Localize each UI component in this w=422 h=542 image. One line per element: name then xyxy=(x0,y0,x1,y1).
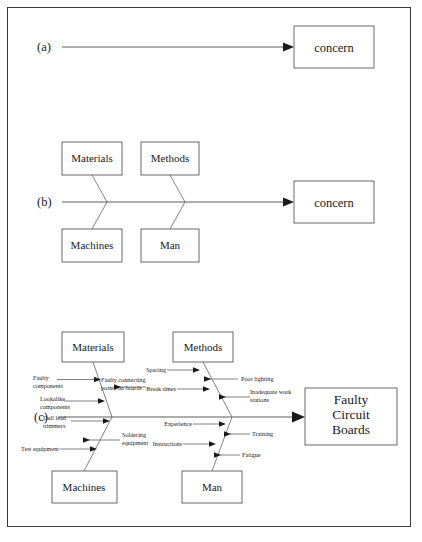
panel-c-spine-arrowhead xyxy=(292,412,305,423)
panel-a-effect-label: concern xyxy=(314,41,354,55)
arrow-soldering-equipment xyxy=(83,437,90,442)
arrow-training xyxy=(224,431,231,436)
panel-b-label-methods: Methods xyxy=(151,152,190,164)
cause-inadequate-work-stations-line2: stations xyxy=(250,396,269,403)
panel-b-rib-man xyxy=(170,202,185,229)
panel-b-label: (b) xyxy=(37,195,52,209)
cause-test-equipment-line1: Test equipment xyxy=(21,445,59,452)
cause-lookalike-components-line1: Lookalike xyxy=(40,395,65,402)
panel-b-label-materials: Materials xyxy=(71,152,113,164)
panel-a: (a) concern xyxy=(37,26,374,68)
cause-faulty-components-line2: components xyxy=(33,382,63,389)
cause-poor-lighting-line1: Poor lighting xyxy=(241,375,274,382)
panel-c-effect-line2: Circuit xyxy=(332,407,370,422)
panel-a-spine-arrowhead xyxy=(283,43,294,52)
panel-a-label: (a) xyxy=(37,40,51,54)
panel-c-effect-line3: Boards xyxy=(332,422,370,437)
panel-c-effect-line1: Faulty xyxy=(334,392,369,407)
cause-inadequate-work-stations-line1: Inadequate work xyxy=(250,388,292,395)
cause-lookalike-components-line2: components xyxy=(40,403,70,410)
arrow-instructions xyxy=(209,441,216,446)
figure-page: (a) concern (b) concern Materials Method… xyxy=(0,0,422,542)
panel-b-rib-materials xyxy=(92,175,107,202)
cause-faulty-connecting-points-line2: points on boards xyxy=(101,384,142,391)
arrow-spacing xyxy=(193,367,200,372)
cause-fatigue-line1: Fatigue xyxy=(242,451,261,458)
panel-b: (b) concern Materials Methods Machines M… xyxy=(37,142,374,262)
panel-b-label-machines: Machines xyxy=(71,239,114,251)
panel-b-effect-label: concern xyxy=(314,196,354,210)
cause-faulty-components-line1: Faulty xyxy=(33,374,50,381)
cause-dull-lead-trimmers-line1: Dull lead xyxy=(43,414,67,421)
cause-group-materials: Faulty components Faulty connecting poin… xyxy=(33,374,146,410)
panel-c-label-materials: Materials xyxy=(72,341,114,353)
cause-soldering-equipment-line2: equipment xyxy=(122,439,148,446)
panel-c: (c) Faulty Circuit Boards Materials Meth… xyxy=(21,332,397,503)
cause-group-methods: Spacing Poor lighting Break times Inadeq… xyxy=(146,366,292,403)
fishbone-figure: (a) concern (b) concern Materials Method… xyxy=(0,0,422,542)
panel-b-spine-arrowhead xyxy=(283,198,294,207)
panel-c-label-methods: Methods xyxy=(184,341,223,353)
panel-c-label-man: Man xyxy=(202,481,223,493)
arrow-break-times xyxy=(203,386,210,391)
arrow-test-equipment xyxy=(90,446,97,451)
cause-instructions-line1: Instructions xyxy=(153,440,183,447)
cause-group-man: Experience Training Instructions Fatigue xyxy=(153,420,273,458)
arrow-poor-lighting xyxy=(204,376,211,381)
panel-b-rib-machines xyxy=(92,202,107,229)
cause-experience-line1: Experience xyxy=(164,420,192,427)
panel-b-rib-methods xyxy=(170,175,185,202)
cause-break-times-line1: Break times xyxy=(146,385,176,392)
cause-spacing-line1: Spacing xyxy=(146,366,166,373)
arrow-experience xyxy=(219,421,226,426)
cause-soldering-equipment-line1: Soldering xyxy=(122,431,146,438)
arrow-lookalike-components xyxy=(98,398,105,403)
panel-c-rib-machines xyxy=(84,417,112,471)
cause-dull-lead-trimmers-line2: trimmers xyxy=(43,422,66,429)
cause-training-line1: Training xyxy=(252,430,273,437)
cause-faulty-connecting-points-line1: Faulty connecting xyxy=(101,376,146,383)
panel-b-label-man: Man xyxy=(160,239,181,251)
panel-c-label-machines: Machines xyxy=(63,481,106,493)
